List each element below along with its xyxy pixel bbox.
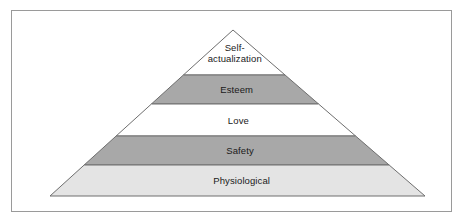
screenshot-canvas: Self- actualizationEsteemLoveSafetyPhysi… (0, 0, 465, 222)
pyramid-tier-esteem (151, 75, 318, 104)
pyramid-tier-self-actualization (183, 30, 285, 75)
pyramid-shape (0, 0, 465, 222)
pyramid-diagram: Self- actualizationEsteemLoveSafetyPhysi… (0, 0, 465, 222)
pyramid-tier-physiological (50, 165, 425, 196)
pyramid-tier-love (116, 104, 355, 136)
pyramid-tier-safety (84, 136, 389, 165)
